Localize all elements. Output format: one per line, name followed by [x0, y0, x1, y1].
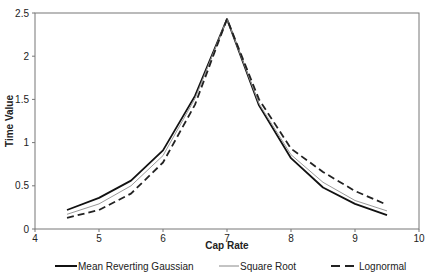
- legend-item-square-root: Square Root: [219, 261, 296, 272]
- legend-label: Lognormal: [359, 261, 406, 272]
- plot-area: [35, 13, 419, 229]
- x-tick-label: 4: [32, 233, 38, 244]
- x-tick-label: 9: [352, 233, 358, 244]
- y-tick-label: 0.5: [15, 180, 29, 191]
- y-tick-label: 0: [23, 224, 29, 235]
- y-tick-label: 1: [23, 137, 29, 148]
- y-axis: 00.511.522.5: [15, 8, 35, 235]
- x-tick-label: 8: [288, 233, 294, 244]
- legend-item-mean-reverting-gaussian: Mean Reverting Gaussian: [55, 261, 194, 272]
- y-tick-label: 1.5: [15, 94, 29, 105]
- line-chart: 00.511.522.5 45678910 Cap Rate Time Valu…: [0, 0, 430, 275]
- legend-label: Square Root: [240, 261, 296, 272]
- x-tick-label: 10: [413, 233, 425, 244]
- y-axis-title: Time Value: [4, 95, 15, 148]
- x-tick-label: 5: [96, 233, 102, 244]
- legend-label: Mean Reverting Gaussian: [78, 261, 194, 272]
- plot-frame: [35, 13, 419, 229]
- y-tick-label: 2.5: [15, 8, 29, 19]
- legend: Mean Reverting Gaussian Square Root Logn…: [55, 261, 406, 272]
- legend-item-lognormal: Lognormal: [331, 261, 406, 272]
- y-tick-label: 2: [23, 51, 29, 62]
- x-tick-label: 6: [160, 233, 166, 244]
- x-axis-title: Cap Rate: [205, 240, 249, 251]
